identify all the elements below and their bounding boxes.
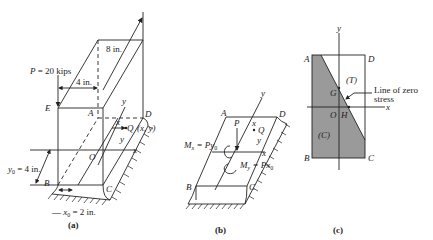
ground-hatch-b [186, 124, 290, 209]
caption-a: (a) [68, 220, 79, 230]
axis-x-c: x [385, 102, 390, 112]
axis-y-a: y [121, 96, 126, 106]
label-G-c: G [330, 88, 337, 98]
caption-c: (c) [333, 225, 343, 235]
label-P-b: P [233, 118, 240, 128]
label-C-b: C [249, 182, 256, 192]
label-A-b: A [220, 108, 227, 118]
figure-a: P = 20 kips 8 in. 4 in. E A D B C O Q (x… [7, 12, 155, 230]
dim-8in: 8 in. [106, 44, 122, 54]
zero-stress-label-2: stress [374, 94, 394, 104]
tension-label: (T) [346, 75, 357, 85]
label-Q-coords: (x, y) [137, 123, 155, 133]
compression-region [312, 55, 365, 158]
load-label: P = 20 kips [29, 66, 72, 76]
label-B-b: B [186, 182, 192, 192]
ground-hatch [48, 126, 153, 205]
label-B: B [44, 178, 50, 188]
axis-x-b: x [261, 148, 266, 158]
moment-x-label: Mx = Py0 [183, 140, 217, 151]
moment-y-label: My = Px0 [239, 160, 273, 171]
label-Q-b: Q [258, 125, 265, 135]
dim-4in: 4 in. [76, 77, 92, 87]
x0-dimension: — x0 = 2 in. [51, 207, 96, 218]
label-C-c: C [368, 153, 375, 163]
eccentric-load-diagram: P = 20 kips 8 in. 4 in. E A D B C O Q (x… [0, 0, 433, 240]
label-B-c: B [304, 153, 310, 163]
label-C: C [106, 184, 113, 194]
small-y-a: y [119, 134, 124, 144]
axis-x-a: x [132, 145, 137, 155]
label-A: A [87, 108, 94, 118]
figure-b: A D B C Q P x y x y Mx = Py0 My = Px0 (b… [183, 88, 290, 235]
label-D-b: D [278, 109, 286, 119]
label-E: E [44, 103, 51, 113]
caption-b: (b) [215, 225, 226, 235]
label-O-c: O [330, 110, 337, 120]
y0-dimension: y0 = 4 in. [7, 164, 41, 175]
axis-y-c: y [336, 23, 341, 33]
axis-y-b: y [260, 88, 265, 98]
label-H-c: H [340, 110, 348, 120]
compression-label: (C) [318, 130, 330, 140]
small-x-a: x [115, 117, 120, 127]
label-D: D [144, 109, 152, 119]
label-Q: Q [127, 123, 134, 133]
small-x-b: x [251, 118, 256, 128]
small-y-b: y [256, 135, 261, 145]
figure-c: A D B C O G H (T) (C) Line of zero stres… [303, 23, 418, 235]
label-A-c: A [303, 54, 310, 64]
label-O: O [89, 152, 96, 162]
label-D-c: D [367, 54, 375, 64]
